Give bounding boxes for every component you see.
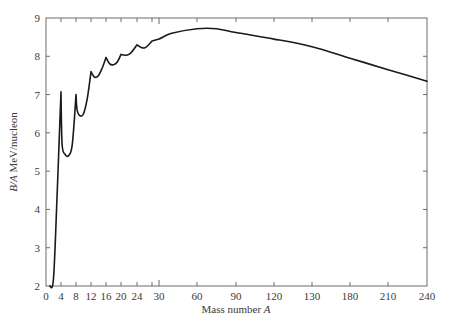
y-tick-label: 7 xyxy=(35,89,41,101)
x-axis-label: Mass number A xyxy=(201,303,270,315)
y-tick-label: 4 xyxy=(35,203,41,215)
x-tick-label: 30 xyxy=(154,290,166,302)
x-tick-label: 4 xyxy=(58,290,64,302)
x-axis-label-variable: A xyxy=(263,303,271,315)
y-tick-label: 6 xyxy=(35,127,41,139)
x-axis-label-text: Mass number xyxy=(201,303,263,315)
x-tick-label: 20 xyxy=(116,290,128,302)
y-tick-label: 3 xyxy=(35,242,41,254)
x-tick-label: 16 xyxy=(101,290,113,302)
x-tick-label: 180 xyxy=(342,290,359,302)
binding-energy-chart: 04812162024306090120130180210240 2345678… xyxy=(0,0,452,333)
x-tick-label: 12 xyxy=(86,290,97,302)
x-tick-label: 60 xyxy=(192,290,204,302)
x-tick-label: 120 xyxy=(266,290,283,302)
y-tick-label: 5 xyxy=(35,165,41,177)
x-tick-label: 90 xyxy=(231,290,243,302)
y-tick-label: 2 xyxy=(35,280,41,292)
plot-frame xyxy=(46,18,427,286)
y-axis-label: B/A MeV/nucleon xyxy=(7,112,19,192)
x-tick-label: 8 xyxy=(73,290,79,302)
x-tick-label: 210 xyxy=(380,290,397,302)
x-axis-ticks: 04812162024306090120130180210240 xyxy=(43,18,436,302)
x-tick-label: 240 xyxy=(419,290,436,302)
y-axis-label-text: MeV/nucleon xyxy=(7,112,19,176)
x-tick-label: 0 xyxy=(43,290,49,302)
binding-energy-curve xyxy=(50,28,427,287)
x-tick-label: 24 xyxy=(132,290,144,302)
x-tick-label: 130 xyxy=(304,290,321,302)
y-tick-label: 8 xyxy=(35,50,41,62)
plot-border xyxy=(46,18,427,286)
y-axis-label-variable: B/A xyxy=(7,175,19,192)
y-axis-ticks: 23456789 xyxy=(35,12,428,292)
y-tick-label: 9 xyxy=(35,12,41,24)
